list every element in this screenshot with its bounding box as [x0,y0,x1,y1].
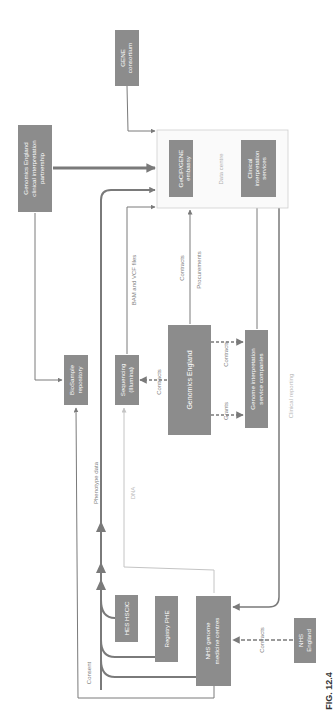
svg-text:consortium: consortium [126,43,133,73]
svg-text:Genomics England: Genomics England [22,142,29,195]
svg-text:service companies: service companies [257,353,264,404]
svg-text:embassy: embassy [184,155,191,181]
node-clinical-interpretation-services: Clinical interpretation services [241,140,276,197]
svg-text:Sequencing: Sequencing [119,363,126,396]
label-dna: DNA [130,487,136,500]
edge-partnership-to-biosample [35,213,62,380]
svg-text:Registry PHE: Registry PHE [163,610,170,647]
node-genomics-england: Genomics England [168,325,211,435]
label-bam-vcf: BAM and VCF files [131,255,137,306]
figure-label: FIG. 12.4 [324,672,334,710]
node-sequencing-illumina: Sequencing (Illumina) [115,355,139,405]
svg-text:(Illumina): (Illumina) [127,367,134,392]
svg-text:partnership: partnership [38,152,45,184]
node-gecip-embassy: GeCIP/GENE embassy [169,140,193,197]
arrowhead-phenotype-1 [96,562,106,573]
node-registry-phe: Registry PHE [155,596,178,662]
svg-text:Genomics England: Genomics England [186,350,194,409]
edge-hes-to-trunk [101,600,115,618]
svg-text:Clinical: Clinical [246,159,253,179]
label-phenotype-data: Phenotype data [93,461,99,504]
svg-text:HES HSCIC: HES HSCIC [123,601,130,635]
label-contracts-nhs: Contracts [259,627,265,653]
node-hes-hscic: HES HSCIC [115,595,138,642]
svg-text:NHS genome: NHS genome [204,622,211,660]
label-contracts-sequencing: Contracts [156,369,162,395]
arrowhead-phenotype-2 [96,579,106,590]
svg-text:clinical interpretation: clinical interpretation [30,140,37,197]
svg-text:Genome interpretation: Genome interpretation [249,348,256,410]
edge-consent [76,408,214,698]
node-ge-clinical-partnership: Genomics England clinical interpretation… [18,125,52,212]
svg-text:GENE: GENE [119,49,126,67]
node-nhs-england: NHS England [294,618,316,663]
edge-nhs-to-trunk [101,660,196,677]
arrowhead-phenotype-3 [96,521,106,532]
node-biosample-repository: BioSample repository [64,355,88,405]
label-contracts-companies: Contracts [223,341,229,367]
node-gene-consortium: GENE consortium [115,30,139,86]
svg-text:NHS: NHS [297,634,304,647]
edge-dna [124,408,214,593]
label-contracts-datacentre: Contracts [179,255,185,281]
edge-registry-to-trunk [101,640,155,657]
label-consent: Consent [86,661,92,684]
svg-text:GeCIP/GENE: GeCIP/GENE [177,150,184,188]
svg-text:interpretation: interpretation [253,150,260,187]
svg-text:services: services [260,157,267,180]
svg-text:repository: repository [76,366,83,394]
svg-text:BioSample: BioSample [68,364,75,394]
label-procurements: Procurements [196,251,202,288]
node-genome-interpretation-companies: Genome interpretation service companies [245,330,268,428]
genomics-england-flow-diagram: Data centre GeCIP/GENE embassy Clinical … [0,0,336,717]
edge-gene-to-datacentre [127,86,155,131]
svg-text:medicine centres: medicine centres [213,618,220,665]
svg-text:England: England [305,629,312,652]
label-grants: Grants [223,402,229,420]
label-clinical-reporting: Clinical reporting [288,374,294,419]
node-nhs-genome-medicine-centres: NHS genome medicine centres [196,596,231,686]
data-centre-label: Data centre [218,153,224,185]
